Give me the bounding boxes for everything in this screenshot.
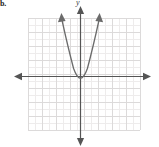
x-axis-right-arrowhead (143, 73, 151, 80)
parabola-left-branch-arrowhead (58, 13, 66, 22)
x-axis-left-arrowhead (14, 73, 22, 80)
y-axis-up-arrowhead (77, 6, 84, 14)
graph-figure: b. (0, 0, 159, 147)
x-axis (14, 73, 151, 80)
parabola-right-branch-arrowhead (95, 13, 103, 22)
y-axis-label: y (76, 0, 80, 7)
coordinate-plane (0, 0, 159, 147)
y-axis-down-arrowhead (77, 138, 84, 146)
